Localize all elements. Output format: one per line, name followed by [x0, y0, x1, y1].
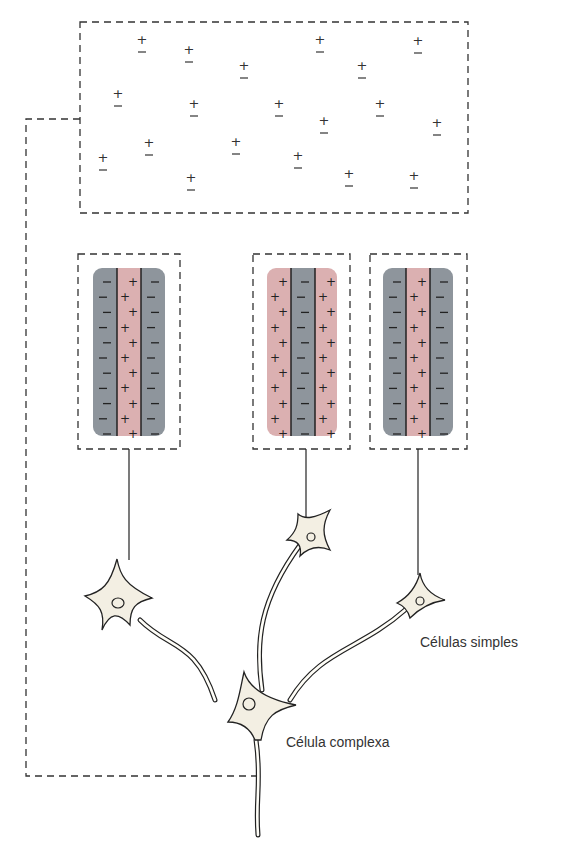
- svg-text:+: +: [417, 366, 427, 380]
- svg-text:+: +: [344, 166, 355, 181]
- svg-text:+: +: [120, 290, 130, 304]
- svg-text:+: +: [270, 290, 280, 304]
- svg-text:+: +: [413, 33, 424, 48]
- svg-text:+: +: [318, 290, 328, 304]
- svg-text:+: +: [409, 168, 420, 183]
- svg-text:+: +: [318, 412, 328, 426]
- svg-text:+: +: [417, 275, 427, 289]
- svg-text:+: +: [357, 58, 368, 73]
- svg-text:+: +: [137, 32, 148, 47]
- svg-text:+: +: [417, 336, 427, 350]
- svg-text:+: +: [417, 427, 427, 441]
- svg-text:+: +: [128, 427, 138, 441]
- svg-text:+: +: [128, 336, 138, 350]
- svg-text:+: +: [293, 148, 304, 163]
- svg-text:+: +: [409, 412, 419, 426]
- svg-text:+: +: [409, 381, 419, 395]
- simple-cell-2: [287, 510, 330, 556]
- complex-cell-label: Célula complexa: [286, 734, 390, 750]
- svg-text:+: +: [270, 381, 280, 395]
- svg-text:+: +: [120, 321, 130, 335]
- svg-text:+: +: [239, 58, 250, 73]
- svg-text:+: +: [98, 150, 109, 165]
- svg-text:+: +: [120, 412, 130, 426]
- svg-text:+: +: [326, 397, 336, 411]
- svg-text:+: +: [318, 381, 328, 395]
- diagram-canvas: +++++++++++++++++++ ++++++++++++++++++++…: [0, 0, 564, 844]
- svg-text:+: +: [113, 86, 124, 101]
- plus-minus-pairs: +++++++++++++++++++: [98, 32, 443, 190]
- svg-text:+: +: [318, 321, 328, 335]
- svg-text:+: +: [326, 275, 336, 289]
- complex-receptive-field-box: [80, 22, 468, 213]
- svg-text:+: +: [128, 305, 138, 319]
- svg-text:+: +: [278, 397, 288, 411]
- svg-text:+: +: [144, 135, 155, 150]
- svg-text:+: +: [274, 96, 285, 111]
- svg-text:+: +: [326, 366, 336, 380]
- svg-text:+: +: [184, 42, 195, 57]
- svg-text:+: +: [128, 397, 138, 411]
- svg-text:+: +: [318, 351, 328, 365]
- svg-text:+: +: [128, 275, 138, 289]
- svg-text:+: +: [278, 305, 288, 319]
- svg-text:+: +: [326, 305, 336, 319]
- svg-text:+: +: [120, 351, 130, 365]
- svg-text:+: +: [417, 397, 427, 411]
- svg-text:+: +: [409, 321, 419, 335]
- svg-text:+: +: [186, 170, 197, 185]
- svg-text:+: +: [319, 113, 330, 128]
- svg-text:+: +: [315, 32, 326, 47]
- feedback-dashed-line: [26, 119, 259, 776]
- svg-text:+: +: [278, 275, 288, 289]
- svg-text:+: +: [409, 351, 419, 365]
- svg-text:+: +: [409, 290, 419, 304]
- svg-text:+: +: [270, 321, 280, 335]
- svg-text:+: +: [278, 366, 288, 380]
- svg-text:+: +: [326, 336, 336, 350]
- svg-text:+: +: [278, 427, 288, 441]
- svg-text:+: +: [270, 351, 280, 365]
- axons: [140, 545, 405, 835]
- svg-text:+: +: [432, 115, 443, 130]
- svg-text:+: +: [120, 381, 130, 395]
- simple-cells-label: Células simples: [420, 634, 518, 650]
- svg-text:+: +: [375, 96, 386, 111]
- svg-text:+: +: [270, 412, 280, 426]
- svg-text:+: +: [417, 305, 427, 319]
- svg-text:+: +: [231, 134, 242, 149]
- svg-text:+: +: [326, 427, 336, 441]
- svg-text:+: +: [278, 336, 288, 350]
- svg-text:+: +: [189, 96, 200, 111]
- svg-text:+: +: [128, 366, 138, 380]
- receptive-field-middle: [253, 254, 350, 518]
